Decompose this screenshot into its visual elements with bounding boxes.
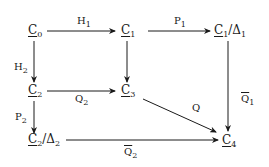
label-h1-sub: 1	[86, 20, 91, 29]
node-c2-delta2: C2/Δ2	[28, 133, 60, 148]
node-c3-sub: 3	[130, 90, 135, 99]
node-c1-delta1-suffix-sub: 1	[241, 30, 246, 39]
node-c1-delta1-base: C	[214, 23, 223, 37]
node-c1-delta1: C1/Δ1	[214, 24, 246, 39]
label-q1-bar: Q1	[241, 94, 254, 107]
label-q2-bar-sub: 2	[132, 151, 137, 160]
label-p2-sub: 2	[22, 116, 27, 125]
node-c4-base: C	[222, 133, 231, 147]
label-q2-bar: Q2	[124, 147, 137, 160]
label-q-text: Q	[192, 102, 200, 113]
node-c1-delta1-suffix: /Δ	[228, 23, 241, 37]
label-q2-bar-text: Q	[124, 146, 132, 157]
label-p1-sub: 1	[181, 20, 186, 29]
label-p2-text: P	[15, 111, 22, 122]
label-q: Q	[192, 103, 200, 113]
label-h2-sub: 2	[23, 66, 28, 75]
node-c3-base: C	[121, 83, 130, 97]
node-c0: C0	[28, 24, 42, 39]
label-h2: H2	[14, 62, 28, 75]
label-p1: P1	[174, 16, 186, 29]
node-c4: C4	[222, 134, 236, 149]
node-c1-base: C	[121, 23, 130, 37]
label-q1-bar-text: Q	[241, 93, 249, 104]
label-q2: Q2	[75, 94, 88, 107]
node-c2-base: C	[28, 83, 37, 97]
node-c0-sub: 0	[37, 30, 42, 39]
label-p1-text: P	[174, 15, 181, 26]
node-c2-delta2-base: C	[28, 132, 37, 146]
node-c1-sub: 1	[130, 30, 135, 39]
node-c0-base: C	[28, 23, 37, 37]
node-c4-sub: 4	[231, 140, 236, 149]
label-h2-text: H	[14, 61, 23, 72]
label-q2-text: Q	[75, 93, 83, 104]
label-h1: H1	[77, 16, 91, 29]
label-q2-sub: 2	[83, 98, 88, 107]
node-c2: C2	[28, 84, 42, 99]
label-h1-text: H	[77, 15, 86, 26]
node-c2-sub: 2	[37, 90, 42, 99]
label-q1-bar-sub: 1	[249, 98, 254, 107]
node-c1: C1	[121, 24, 135, 39]
node-c3: C3	[121, 84, 135, 99]
commutative-diagram: C0 C1 C1/Δ1 C2 C3 C2/Δ2 C4 H1 P1 H2 Q1 Q…	[0, 0, 269, 167]
node-c2-delta2-suffix-sub: 2	[55, 139, 60, 148]
label-p2: P2	[15, 112, 27, 125]
arrow-q	[143, 99, 216, 132]
node-c2-delta2-suffix: /Δ	[42, 132, 55, 146]
